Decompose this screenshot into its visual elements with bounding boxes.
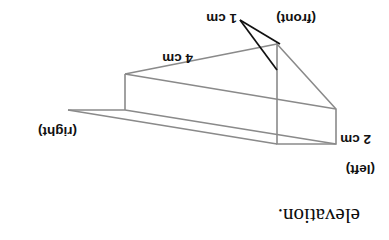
cuboid-bottom-right-edge: [125, 44, 277, 74]
cuboid-drawing: 1 cm (front) 2 cm (left) 4 cm (right) el…: [0, 0, 389, 240]
dimension-label-depth: 1 cm: [206, 11, 237, 26]
face-label-left: (left): [346, 162, 375, 177]
figure-caption: elevation.: [278, 204, 360, 228]
face-label-front: (front): [276, 11, 316, 26]
cuboid-end-face: [277, 44, 336, 144]
figure-canvas: 1 cm (front) 2 cm (left) 4 cm (right) el…: [0, 0, 389, 240]
dimension-label-height: 2 cm: [340, 132, 371, 147]
rotated-figure-wrapper: 1 cm (front) 2 cm (left) 4 cm (right) el…: [0, 0, 389, 240]
dimension-label-length: 4 cm: [162, 51, 193, 66]
face-label-right: (right): [38, 124, 77, 139]
leader-line-upper: [240, 20, 280, 44]
